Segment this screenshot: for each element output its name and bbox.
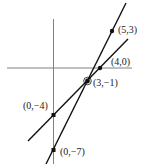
label-4-0: (4,0) xyxy=(111,56,130,68)
label-0-m4: (0,−4) xyxy=(23,100,48,112)
point-5-3 xyxy=(110,29,114,33)
label-3-m1: (3,−1) xyxy=(93,77,118,89)
point-3-m1 xyxy=(85,79,90,84)
label-0-m7: (0,−7) xyxy=(60,146,85,158)
shallow-line xyxy=(28,39,128,141)
point-0-m7 xyxy=(52,148,56,152)
point-0-m4 xyxy=(52,113,56,117)
coordinate-graph: (5,3) (4,0) (3,−1) (0,−4) (0,−7) xyxy=(0,0,142,164)
label-5-3: (5,3) xyxy=(118,24,137,36)
point-4-0 xyxy=(98,66,102,70)
